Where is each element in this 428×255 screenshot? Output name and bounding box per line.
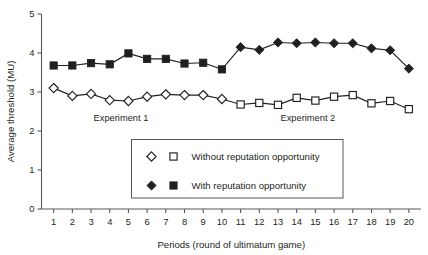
series-without-reputation <box>49 84 412 113</box>
marker-without-reputation-17 <box>349 92 356 99</box>
marker-with-reputation-6 <box>144 55 151 62</box>
x-tick-label-18: 18 <box>366 216 376 227</box>
x-tick-label-14: 14 <box>291 216 301 227</box>
x-tick-label-3: 3 <box>88 216 93 227</box>
x-tick-label-10: 10 <box>217 216 227 227</box>
marker-with-reputation-8 <box>181 60 188 67</box>
x-tick-label-16: 16 <box>329 216 339 227</box>
y-tick-label-0: 0 <box>29 203 34 214</box>
marker-legend1-b <box>170 182 177 189</box>
marker-with-reputation-17 <box>348 39 357 48</box>
x-tick-label-5: 5 <box>126 216 131 227</box>
marker-with-reputation-10 <box>218 66 225 73</box>
marker-without-reputation-5 <box>124 96 133 105</box>
marker-without-reputation-16 <box>330 93 337 100</box>
marker-without-reputation-1 <box>49 84 58 93</box>
y-tick-label-1: 1 <box>29 164 34 175</box>
marker-without-reputation-9 <box>199 91 208 100</box>
marker-without-reputation-7 <box>161 90 170 99</box>
x-tick-label-12: 12 <box>254 216 264 227</box>
x-tick-label-20: 20 <box>404 216 414 227</box>
marker-without-reputation-8 <box>180 91 189 100</box>
marker-without-reputation-3 <box>86 89 95 98</box>
x-tick-label-19: 19 <box>385 216 395 227</box>
x-tick-label-4: 4 <box>107 216 112 227</box>
x-tick-label-9: 9 <box>201 216 206 227</box>
marker-without-reputation-19 <box>387 97 394 104</box>
series-group <box>49 38 413 113</box>
chart-canvas: 0123451234567891011121314151617181920 Ex… <box>0 0 428 255</box>
y-tick-label-4: 4 <box>29 47 34 58</box>
x-tick-label-13: 13 <box>273 216 283 227</box>
y-axis-title: Average threshold (MU) <box>5 61 16 163</box>
x-axis-title: Periods (round of ultimatum game) <box>157 239 305 250</box>
marker-with-reputation-12 <box>255 45 264 54</box>
marker-legend0-b <box>170 153 177 160</box>
marker-without-reputation-2 <box>68 91 77 100</box>
x-tick-label-6: 6 <box>145 216 150 227</box>
y-tick-label-2: 2 <box>29 125 34 136</box>
marker-without-reputation-6 <box>143 92 152 101</box>
marker-without-reputation-11 <box>237 101 244 108</box>
marker-without-reputation-12 <box>256 99 263 106</box>
marker-without-reputation-10 <box>217 94 226 103</box>
marker-with-reputation-16 <box>329 39 338 48</box>
marker-with-reputation-5 <box>125 50 132 57</box>
experiment-label-1: Experiment 1 <box>94 113 149 123</box>
marker-with-reputation-14 <box>292 39 301 48</box>
marker-without-reputation-18 <box>368 100 375 107</box>
marker-with-reputation-1 <box>50 62 57 69</box>
marker-without-reputation-13 <box>274 101 281 108</box>
x-tick-label-11: 11 <box>236 216 246 227</box>
x-tick-label-7: 7 <box>163 216 168 227</box>
marker-with-reputation-15 <box>311 38 320 47</box>
marker-without-reputation-20 <box>405 106 412 113</box>
experiment-label-2: Experiment 2 <box>281 113 336 123</box>
legend-label-1: With reputation opportunity <box>192 180 307 191</box>
chart-figure: 0123451234567891011121314151617181920 Ex… <box>0 0 428 255</box>
legend-entry-with-reputation[interactable]: With reputation opportunity <box>147 180 306 191</box>
marker-with-reputation-4 <box>106 61 113 68</box>
x-tick-label-15: 15 <box>310 216 320 227</box>
legend-label-0: Without reputation opportunity <box>192 151 320 162</box>
chart-legend: Without reputation opportunityWith reput… <box>132 140 344 199</box>
marker-with-reputation-18 <box>367 44 376 53</box>
marker-with-reputation-13 <box>273 38 282 47</box>
x-tick-label-17: 17 <box>348 216 358 227</box>
panel-annotations: Experiment 1Experiment 2 <box>94 113 336 123</box>
marker-with-reputation-7 <box>162 55 169 62</box>
marker-without-reputation-15 <box>312 97 319 104</box>
y-tick-label-3: 3 <box>29 86 34 97</box>
x-tick-label-8: 8 <box>182 216 187 227</box>
marker-with-reputation-2 <box>69 62 76 69</box>
x-tick-label-1: 1 <box>51 216 56 227</box>
marker-with-reputation-9 <box>200 59 207 66</box>
series-with-reputation <box>50 38 413 73</box>
x-tick-label-2: 2 <box>70 216 75 227</box>
marker-without-reputation-4 <box>105 96 114 105</box>
legend-entry-without-reputation[interactable]: Without reputation opportunity <box>147 151 320 162</box>
marker-with-reputation-3 <box>87 60 94 67</box>
y-tick-label-5: 5 <box>29 8 34 19</box>
marker-without-reputation-14 <box>293 94 300 101</box>
